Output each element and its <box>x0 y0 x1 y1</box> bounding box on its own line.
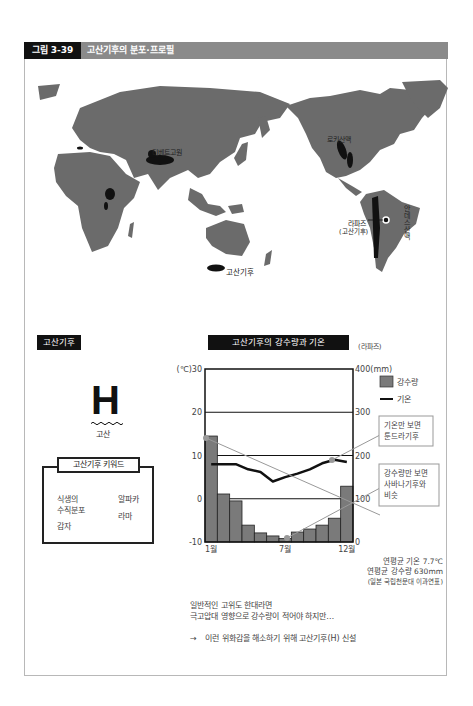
svg-text:300: 300 <box>355 408 370 417</box>
annual-temp: 연평균 기온 7.7℃ <box>367 557 443 567</box>
legend-swatch <box>207 265 225 272</box>
figure-title: 고산기후의 분포·프로필 <box>87 42 174 59</box>
annotation-precip-line1: 강수량만 보면 <box>384 468 428 479</box>
svg-text:400(mm): 400(mm) <box>355 365 392 374</box>
svg-text:0: 0 <box>197 495 202 504</box>
explanation-line1: 일반적인 고위도 한대라면 <box>190 600 334 611</box>
keyword-2: 감자 <box>57 521 71 532</box>
lapaz-marker <box>383 217 389 223</box>
wavy-underline-icon <box>91 421 123 426</box>
annotation-temp-line1: 기온만 보면 <box>384 420 421 431</box>
annual-precip: 연평균 강수량 630mm <box>367 567 443 577</box>
climate-symbol-label: 고산 <box>96 428 110 439</box>
section-tag-chart: 고산기후의 강수량과 기온 <box>208 335 349 350</box>
precipitation-bars <box>205 436 353 542</box>
svg-text:20: 20 <box>192 408 202 417</box>
climate-symbol-H: H <box>91 380 120 420</box>
conclusion-text: 이런 위화감을 해소하기 위해 고산기후(H) 신설 <box>205 634 356 643</box>
keyword-3: 알파카 <box>118 494 139 505</box>
svg-text:-10: -10 <box>189 538 202 547</box>
world-map <box>30 78 450 278</box>
annotation-temperature: 기온만 보면 툰드라기후 <box>384 420 421 442</box>
label-lapaz-sub: (고산기후) <box>339 226 368 236</box>
chart-location: (라파즈) <box>358 341 381 351</box>
explanation-text: 일반적인 고위도 한대라면 극고압대 영향으로 강수량이 적어야 하지만… <box>190 600 334 622</box>
svg-text:0: 0 <box>355 538 360 547</box>
svg-text:(℃)30: (℃)30 <box>177 365 202 374</box>
annotation-precipitation: 강수량만 보면 사바나기후와 비슷 <box>384 468 428 501</box>
legend-label-highland: 고산기후 <box>226 266 254 277</box>
keyword-1a: 식생의 <box>57 494 78 505</box>
annotation-temp-line2: 툰드라기후 <box>384 431 421 442</box>
figure-header: 그림 3-39 고산기후의 분포·프로필 <box>24 42 448 59</box>
figure-number: 그림 3-39 <box>24 42 81 59</box>
annotation-precip-line2: 사바나기후와 <box>384 479 428 490</box>
data-source: (일본 국립천문대 이과연표) <box>367 577 443 587</box>
svg-text:강수량: 강수량 <box>397 377 419 387</box>
keyword-box-title: 고산기후 키워드 <box>57 457 140 473</box>
chart-stats: 연평균 기온 7.7℃ 연평균 강수량 630mm (일본 국립천문대 이과연표… <box>367 557 443 587</box>
label-rockies: 로키산맥 <box>327 134 351 144</box>
svg-text:12월: 12월 <box>338 544 355 554</box>
svg-text:200: 200 <box>355 452 370 461</box>
keyword-1b: 수직분포 <box>57 505 85 516</box>
svg-text:100: 100 <box>355 495 370 504</box>
label-andes: 안데스산맥 <box>401 205 411 240</box>
arrow-icon: → <box>190 634 197 643</box>
svg-text:10: 10 <box>192 452 202 461</box>
annotation-precip-line3: 비슷 <box>384 490 428 501</box>
section-tag-highland: 고산기후 <box>37 335 81 350</box>
climograph: -1001020(℃)30 0100200300400(mm) 1월7월12월 … <box>170 360 460 560</box>
svg-text:1월: 1월 <box>205 544 217 554</box>
land-masses <box>38 80 448 272</box>
chart-gridlines <box>205 412 353 499</box>
label-tibet: 티베트고원 <box>152 147 182 157</box>
svg-text:기온: 기온 <box>397 395 411 404</box>
svg-text:7월: 7월 <box>279 544 291 554</box>
explanation-line2: 극고압대 영향으로 강수량이 적어야 하지만… <box>190 611 334 622</box>
keyword-4: 라마 <box>118 511 132 522</box>
conclusion: → 이런 위화감을 해소하기 위해 고산기후(H) 신설 <box>190 632 356 643</box>
